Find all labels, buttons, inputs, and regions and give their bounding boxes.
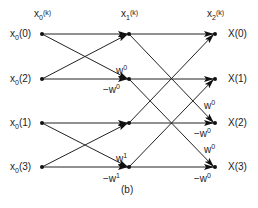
input-label-3: x0(3): [10, 161, 31, 174]
figure-caption: (b): [121, 184, 133, 195]
weight-s1-r1-top: w0: [115, 64, 127, 76]
output-label-0: X(0): [228, 28, 247, 39]
weight-s2-r2-top: w0: [203, 99, 215, 111]
stage2-edges: [129, 34, 214, 167]
column-header-0: x0(k): [34, 8, 51, 21]
weight-s2-r3-bottom: −w0: [194, 172, 211, 184]
output-label-2: X(2): [228, 117, 247, 128]
input-label-2: x0(1): [10, 117, 31, 130]
column-header-1: x1(k): [121, 8, 138, 21]
weight-s1-r1-bottom: −w0: [103, 83, 120, 95]
output-label-1: X(1): [228, 73, 247, 84]
weight-s2-r3-top: w0: [203, 143, 215, 155]
stage1-edges: [42, 34, 128, 167]
weight-s1-r3-bottom: −w1: [103, 172, 120, 184]
weight-s1-r3-top: w1: [115, 152, 127, 164]
nodes: [40, 32, 217, 169]
column-header-2: x2(k): [207, 8, 224, 21]
input-label-0: x0(0): [10, 28, 31, 41]
butterfly-diagram: x0(k) x1(k) x2(k) x0(0) x0(2) x0(1) x0(3…: [0, 0, 258, 208]
weight-s2-r2-bottom: −w0: [194, 127, 211, 139]
output-label-3: X(3): [228, 161, 247, 172]
input-label-1: x0(2): [10, 73, 31, 86]
